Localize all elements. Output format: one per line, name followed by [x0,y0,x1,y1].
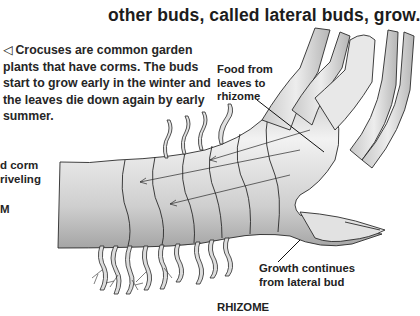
rhizome-title: RHIZOME [217,301,269,315]
growth-label: Growth continues from lateral bud [259,262,355,289]
leader-line-growth [278,240,300,262]
growth-label-line: from lateral bud [259,276,355,290]
food-label-line: leaves to [217,77,273,91]
food-label-line: Food from [217,63,273,77]
food-label-line: rhizome [217,90,273,104]
food-label: Food from leaves to rhizome [217,63,273,104]
growth-label-line: Growth continues [259,262,355,276]
